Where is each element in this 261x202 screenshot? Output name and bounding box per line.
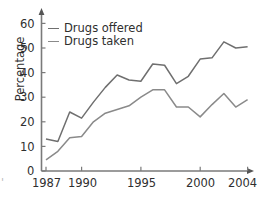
x-tick-label-2000: 2000 bbox=[186, 176, 215, 190]
x-tick-label-1990: 1990 bbox=[68, 176, 97, 190]
left-edge-artifact-mark: ' bbox=[1, 176, 4, 189]
y-tick-label-20: 20 bbox=[20, 115, 34, 129]
legend-line-icon-drugs-taken bbox=[48, 41, 59, 42]
x-tick-label-2004: 2004 bbox=[228, 176, 257, 190]
chart-container: 60 50 40 30 20 10 0 1987 1990 1995 2000 … bbox=[0, 0, 261, 202]
y-axis-arrowhead bbox=[39, 8, 45, 15]
x-tick-label-1995: 1995 bbox=[127, 176, 156, 190]
series-line-drugs-offered bbox=[46, 42, 248, 142]
x-tick-label-1987: 1987 bbox=[32, 176, 61, 190]
chart-legend: Drugs offered Drugs taken bbox=[48, 22, 143, 48]
legend-item-drugs-taken: Drugs taken bbox=[48, 35, 143, 48]
y-tick-label-10: 10 bbox=[20, 140, 34, 154]
series-line-drugs-taken bbox=[46, 90, 248, 160]
legend-line-icon-drugs-offered bbox=[48, 28, 59, 29]
y-axis-title: Percentage bbox=[13, 21, 27, 117]
legend-label-drugs-taken: Drugs taken bbox=[64, 35, 134, 48]
